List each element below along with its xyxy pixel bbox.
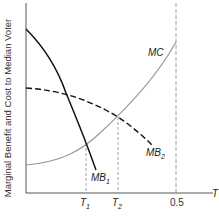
tick-t2: T2 xyxy=(112,197,122,210)
y-axis-label: Marginal Benefit and Cost to Median Vote… xyxy=(2,19,13,198)
tick-t2-sub: 2 xyxy=(117,203,122,210)
mb1-label-sub: 1 xyxy=(106,178,110,185)
mb2-label-sub: 2 xyxy=(160,153,165,160)
mb2-label-main: MB xyxy=(146,147,161,158)
mb2-label: MB2 xyxy=(146,147,165,160)
mb1-curve xyxy=(26,29,96,170)
chart-figure: Marginal Benefit and Cost to Median Vote… xyxy=(0,0,219,216)
tick-half: 0.5 xyxy=(170,197,184,208)
tick-t1: T1 xyxy=(80,197,90,210)
mb1-label-main: MB xyxy=(91,172,106,183)
chart-svg: Marginal Benefit and Cost to Median Vote… xyxy=(0,0,219,216)
mc-label: MC xyxy=(148,47,164,58)
tick-t1-sub: 1 xyxy=(86,203,90,210)
mb1-label: MB1 xyxy=(91,172,110,185)
x-axis-label: T xyxy=(212,188,219,199)
mb2-curve xyxy=(26,88,152,145)
